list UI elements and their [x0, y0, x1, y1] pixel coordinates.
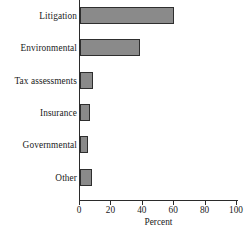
x-axis-line	[79, 200, 238, 201]
bar-tax-assessments	[80, 72, 93, 89]
x-tick-label-100: 100	[221, 205, 245, 216]
bar-insurance	[80, 104, 90, 121]
x-axis-title-wrap: Percent	[0, 217, 245, 228]
x-tick-label-60: 60	[158, 205, 188, 216]
bar-litigation	[80, 7, 174, 24]
x-tick-label-20: 20	[95, 205, 125, 216]
category-label-litigation: Litigation	[3, 11, 77, 21]
bar-chart: Litigation Environmental Tax assessments…	[0, 0, 245, 233]
category-label-tax-assessments: Tax assessments	[3, 76, 77, 86]
x-tick-label-0: 0	[64, 205, 94, 216]
x-tick-label-80: 80	[190, 205, 220, 216]
category-label-insurance: Insurance	[3, 108, 77, 118]
bar-environmental	[80, 39, 140, 56]
category-label-environmental: Environmental	[3, 43, 77, 53]
bar-governmental	[80, 136, 88, 153]
x-tick-label-40: 40	[127, 205, 157, 216]
y-axis-line	[79, 0, 80, 201]
x-axis-title: Percent	[145, 217, 173, 227]
bar-other	[80, 169, 92, 186]
category-label-governmental: Governmental	[3, 140, 77, 150]
plot-area	[80, 0, 237, 200]
category-label-other: Other	[3, 173, 77, 183]
